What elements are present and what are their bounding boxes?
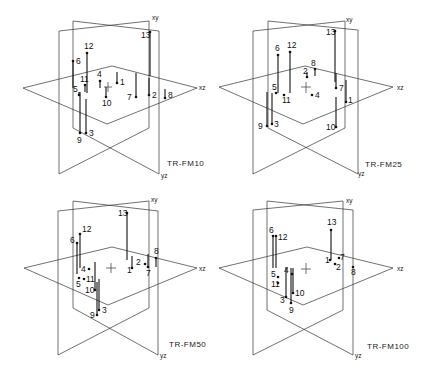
point-label: 4 (97, 69, 102, 79)
point-group: 12345678910111213 (258, 27, 353, 132)
point-label: 4 (81, 264, 86, 274)
point-label: 13 (118, 208, 128, 218)
axis-label-yz: yz (161, 172, 168, 180)
point-marker-icon (99, 80, 102, 83)
point-label: 4 (315, 90, 320, 100)
axis-label-xy: xy (152, 14, 159, 22)
point-label: 1 (120, 77, 125, 87)
point-marker-icon (72, 60, 75, 63)
point-label: 7 (339, 83, 344, 93)
point-marker-icon (306, 76, 309, 79)
point-label: 3 (280, 295, 285, 305)
point-label: 3 (274, 119, 279, 129)
point-marker-icon (84, 84, 87, 87)
point-marker-icon (98, 309, 101, 312)
point-marker-icon (335, 87, 338, 90)
point-group: 12345678910111213 (72, 30, 173, 145)
axis-label-xz: xz (397, 84, 404, 91)
point-label: 5 (73, 84, 78, 94)
point-label: 10 (326, 122, 336, 132)
vertical-plane-back (267, 201, 353, 355)
panel-tr-fm50: 12345678910111213 xy xz yz TR-FM50 (0, 188, 215, 376)
point-marker-icon (86, 52, 89, 55)
point-label: 5 (271, 269, 276, 279)
axis-label-xz: xz (199, 265, 206, 272)
point-marker-icon (314, 68, 317, 71)
axis-label-yz: yz (358, 170, 365, 178)
horizontal-plane-xz (24, 247, 197, 305)
point-marker-icon (311, 94, 314, 97)
point-label: 10 (295, 288, 305, 298)
panel-title: TR-FM10 (167, 159, 204, 168)
point-marker-icon (292, 292, 295, 295)
point-marker-icon (116, 82, 119, 85)
point-label: 7 (146, 268, 151, 278)
point-label: 6 (269, 225, 274, 235)
point-label: 2 (136, 257, 141, 267)
axis-label-yz: yz (355, 352, 362, 360)
point-label: 9 (289, 305, 294, 315)
point-label: 12 (84, 41, 94, 51)
point-label: 9 (77, 135, 82, 145)
point-label: 4 (284, 265, 289, 275)
point-label: 10 (102, 98, 112, 108)
point-label: 2 (152, 90, 157, 100)
point-label: 6 (70, 235, 75, 245)
point-marker-icon (96, 314, 99, 317)
point-label: 11 (282, 95, 291, 105)
axis-label-xy: xy (346, 16, 353, 24)
axis-label-xz: xz (397, 265, 404, 272)
point-label: 7 (127, 92, 132, 102)
panel-diagram: 12345678910111213 xy xz yz TR-FM100 (215, 188, 430, 376)
point-label: 2 (336, 262, 341, 272)
point-label: 3 (102, 305, 107, 315)
point-label: 12 (287, 40, 297, 50)
point-marker-icon (285, 296, 288, 299)
panel-diagram: 12345678910111213 xy xz yz TR-FM10 (0, 0, 215, 188)
point-label: 3 (89, 128, 94, 138)
point-group: 12345678910111213 (70, 208, 159, 320)
point-label: 11 (271, 279, 280, 289)
point-label: 8 (351, 267, 356, 277)
point-label: 2 (303, 66, 308, 76)
point-marker-icon (144, 263, 147, 266)
point-label: 5 (76, 279, 81, 289)
point-label: 9 (258, 121, 263, 131)
point-marker-icon (164, 97, 167, 100)
point-label: 12 (82, 224, 92, 234)
horizontal-plane-xz (219, 247, 393, 305)
point-label: 1 (348, 95, 353, 105)
point-marker-icon (271, 123, 274, 126)
axis-label-xy: xy (151, 196, 158, 204)
point-marker-icon (289, 51, 292, 54)
point-marker-icon (275, 92, 278, 95)
axis-label-xy: xy (346, 197, 353, 205)
point-label: 8 (311, 58, 316, 68)
point-marker-icon (79, 132, 82, 135)
point-label: 8 (154, 246, 159, 256)
point-label: 10 (85, 285, 95, 295)
point-label: 13 (141, 30, 151, 40)
point-marker-icon (266, 125, 269, 128)
point-label: 9 (90, 310, 95, 320)
point-label: 8 (168, 90, 173, 100)
point-marker-icon (155, 257, 158, 260)
panel-tr-fm100: 12345678910111213 xy xz yz TR-FM100 (215, 188, 430, 376)
panel-title: TR-FM25 (365, 160, 402, 169)
panel-title: TR-FM100 (367, 342, 409, 351)
panel-tr-fm10: 12345678910111213 xy xz yz TR-FM10 (0, 0, 215, 188)
point-marker-icon (88, 268, 91, 271)
point-marker-icon (79, 233, 82, 236)
panel-title: TR-FM50 (169, 340, 206, 349)
point-marker-icon (290, 302, 293, 305)
point-label: 7 (340, 252, 345, 262)
figure: 12345678910111213 xy xz yz TR-FM10 12345… (0, 0, 430, 376)
point-marker-icon (76, 242, 79, 245)
point-marker-icon (277, 54, 280, 57)
vertical-plane-front (58, 201, 149, 355)
axis-label-yz: yz (160, 352, 167, 360)
point-label: 12 (278, 232, 288, 242)
axis-label-xz: xz (199, 84, 206, 91)
point-label: 11 (86, 274, 95, 284)
point-label: 13 (326, 27, 336, 37)
